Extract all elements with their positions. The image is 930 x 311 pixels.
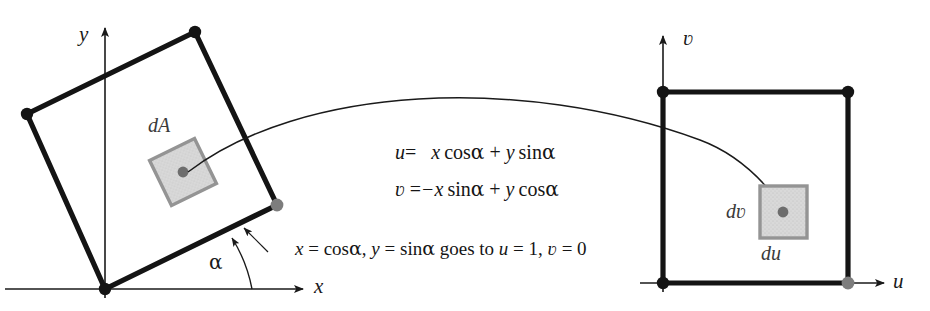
note-y-var: y <box>371 238 379 259</box>
unit-corner-dot-top-left <box>657 86 669 98</box>
note-goes-to: goes to <box>440 238 494 259</box>
eq2-alpha-1: α <box>471 177 485 201</box>
note-v-var: ʋ <box>548 238 557 259</box>
eq2-sin: sin <box>447 178 470 200</box>
u-axis-label: u <box>893 271 904 292</box>
dv-label: dʋ <box>726 201 746 221</box>
note-alpha-2: α <box>422 237 435 259</box>
corner-dot-image-of-unit-x <box>271 199 284 212</box>
note-u-var: u <box>499 238 509 259</box>
eq2-term-y: y <box>506 178 515 200</box>
note-v-val: = 0 <box>562 238 587 259</box>
dA-center-dot <box>178 167 189 178</box>
unit-corner-dot-u-equals-one <box>842 277 855 290</box>
note-x-eq: = cos <box>308 238 349 259</box>
left-plot-group <box>5 26 303 298</box>
note-alpha-1: α <box>349 237 362 259</box>
unit-square <box>663 92 848 283</box>
note-y-eq: = sin <box>385 238 423 259</box>
note-u-val: = 1, <box>513 238 543 259</box>
rotation-change-of-variables-figure: y x α dA ʋ u dʋ du u= x cosα + y sinα ʋ … <box>0 0 930 311</box>
alpha-angle-label: α <box>209 252 223 272</box>
corner-dot-origin <box>99 283 111 295</box>
eq2-equals: = <box>410 178 421 200</box>
eq2-plus: + <box>489 178 500 200</box>
v-axis-label: ʋ <box>683 28 693 49</box>
unit-vector-note: x = cosα, y = sinα goes to u = 1, ʋ = 0 <box>276 220 587 277</box>
alpha-angle-arc <box>232 238 252 289</box>
dA-label: dA <box>148 115 170 135</box>
eq2-term-x: −x <box>421 178 443 200</box>
unit-corner-dot-origin <box>657 277 669 289</box>
du-label: du <box>761 243 781 263</box>
eq2-alpha-2: α <box>545 177 559 201</box>
eq2-lhs: ʋ <box>395 178 405 200</box>
y-axis-label: y <box>79 24 88 45</box>
transform-equation-v: ʋ =−x sinα + y cosα <box>375 159 559 219</box>
note-leader-line <box>244 228 268 252</box>
corner-dot-top <box>189 26 201 38</box>
eq2-cos: cos <box>519 178 546 200</box>
unit-corner-dot-top-right <box>842 86 854 98</box>
corner-dot-left <box>21 108 33 120</box>
x-axis-label: x <box>314 276 323 297</box>
dudv-center-dot <box>778 207 789 218</box>
